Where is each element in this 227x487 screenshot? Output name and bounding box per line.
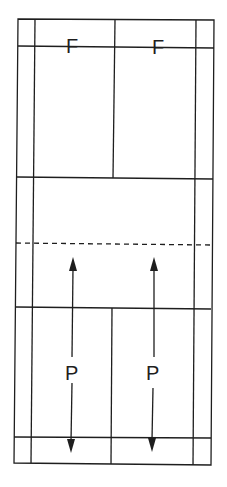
right-singles-sideline xyxy=(193,20,196,465)
left-singles-sideline xyxy=(31,19,35,463)
label-p-left: P xyxy=(65,362,78,384)
bottom-center-line xyxy=(111,308,112,464)
top-doubles-long-service-line xyxy=(18,46,214,48)
label-f-left: F xyxy=(66,35,78,57)
top-short-service-line xyxy=(17,177,213,179)
top-center-line xyxy=(113,20,115,178)
label-p-right: P xyxy=(146,362,159,384)
bottom-short-service-line xyxy=(16,307,211,309)
badminton-court-diagram: F F P P xyxy=(0,0,227,487)
right-movement-arrow-icon xyxy=(148,257,158,452)
net-line xyxy=(16,243,212,245)
bottom-doubles-long-service-line xyxy=(14,437,211,438)
left-movement-arrow-icon xyxy=(67,257,77,453)
label-f-right: F xyxy=(152,36,164,58)
